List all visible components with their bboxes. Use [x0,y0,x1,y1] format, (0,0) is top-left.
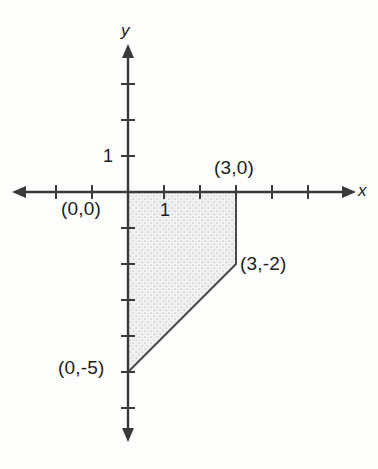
shaded-region-polygon [128,192,236,372]
point-label-0-neg5: (0,-5) [58,358,105,377]
plot-svg [0,0,378,469]
y-axis-arrow-down-icon [122,428,134,442]
y-axis-label: y [121,22,130,39]
x-axis-unit-tick-label: 1 [160,201,170,219]
x-axis-label: x [358,182,367,199]
point-label-3-0: (3,0) [214,158,254,177]
coordinate-plane-figure: x y 1 1 (0,0) (3,0) (3,-2) (0,-5) [0,0,378,469]
point-label-3-neg2: (3,-2) [240,254,287,273]
x-axis-arrow-left-icon [12,186,26,198]
y-axis-arrow-up-icon [122,44,134,58]
point-label-origin: (0,0) [61,199,101,218]
x-axis-arrow-right-icon [342,186,356,198]
y-axis-unit-tick-label: 1 [103,147,113,165]
